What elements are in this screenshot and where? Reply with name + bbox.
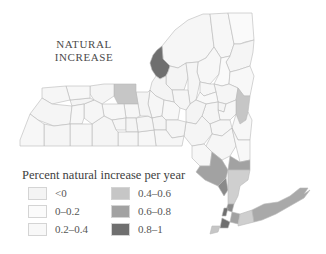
county-tioga (138, 130, 156, 146)
legend: <0 0–0.2 0.2–0.4 0.4–0.6 0.6–0.8 0.8–1 (28, 186, 188, 238)
legend-item-lt0: <0 (28, 186, 67, 200)
legend-label: 0.8–1 (138, 223, 163, 235)
legend-swatch (111, 187, 130, 200)
legend-item-0.2-0.4: 0.2–0.4 (28, 222, 88, 236)
county-cattaraugus (44, 124, 70, 146)
county-wyoming (70, 104, 84, 124)
legend-item-0.8-1: 0.8–1 (111, 222, 163, 236)
legend-swatch (28, 223, 47, 236)
legend-item-0.4-0.6: 0.4–0.6 (111, 186, 171, 200)
county-wayne (114, 84, 138, 104)
county-kings (220, 218, 230, 228)
county-tompkins (136, 116, 154, 132)
legend-item-0-0.2: 0–0.2 (28, 204, 80, 218)
county-cortland (152, 116, 166, 130)
county-suffolk (252, 188, 310, 222)
legend-swatch (111, 223, 130, 236)
legend-label: 0.4–0.6 (138, 187, 171, 199)
county-richmond (210, 226, 220, 234)
county-seneca (124, 104, 140, 118)
legend-swatch (28, 187, 47, 200)
legend-label: <0 (55, 187, 67, 199)
county-westchester (228, 170, 250, 204)
map-title-line-1: NATURAL (54, 38, 114, 51)
county-allegany (70, 124, 92, 146)
map-title: NATURAL INCREASE (54, 38, 114, 64)
legend-label: 0.2–0.4 (55, 223, 88, 235)
legend-item-0.6-0.8: 0.6–0.8 (111, 204, 171, 218)
county-schuyler (126, 118, 138, 132)
legend-swatch (28, 205, 47, 218)
legend-swatch (111, 205, 130, 218)
county-chemung (118, 132, 138, 146)
county-new-york (222, 208, 228, 216)
legend-title: Percent natural increase per year (22, 168, 185, 183)
legend-label: 0.6–0.8 (138, 205, 171, 217)
county-nassau (238, 210, 254, 226)
legend-label: 0–0.2 (55, 205, 80, 217)
map-title-line-2: INCREASE (54, 51, 114, 64)
